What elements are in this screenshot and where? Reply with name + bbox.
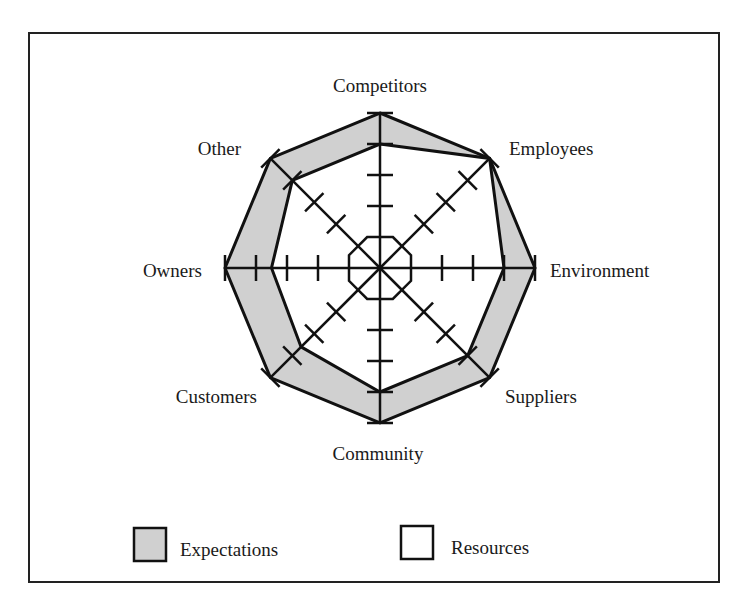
- radar-axes: [225, 113, 535, 423]
- legend-label-expectations: Expectations: [180, 539, 278, 560]
- radar-chart: CompetitorsEmployeesEnvironmentSuppliers…: [0, 0, 742, 610]
- legend-label-resources: Resources: [451, 537, 529, 558]
- axis-label-competitors: Competitors: [333, 75, 427, 96]
- legend-swatch-expectations: [134, 528, 166, 561]
- legend: ExpectationsResources: [134, 526, 529, 561]
- axis-label-suppliers: Suppliers: [505, 386, 577, 407]
- axis-label-other: Other: [198, 138, 242, 159]
- legend-swatch-resources: [401, 526, 433, 559]
- axis-label-owners: Owners: [143, 260, 202, 281]
- axis-label-environment: Environment: [550, 260, 650, 281]
- axis-label-employees: Employees: [509, 138, 593, 159]
- axis-label-customers: Customers: [176, 386, 257, 407]
- axis-label-community: Community: [333, 443, 424, 464]
